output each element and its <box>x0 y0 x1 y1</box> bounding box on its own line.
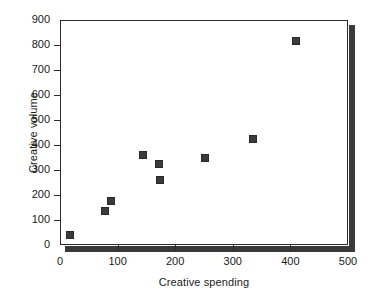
frame-shadow-bottom <box>65 246 355 252</box>
x-axis-tick-label: 500 <box>328 256 368 267</box>
y-axis-tick-label: 800 <box>20 39 50 50</box>
x-axis-tick <box>175 245 176 251</box>
y-axis-title-text: Creative volume <box>27 92 39 173</box>
x-axis-tick-label: 0 <box>40 256 80 267</box>
x-axis-tick <box>290 245 291 251</box>
data-point-marker <box>139 151 147 159</box>
x-axis-tick-label: 100 <box>98 256 138 267</box>
data-point-marker <box>101 207 109 215</box>
y-axis-tick-label: 400 <box>20 139 50 150</box>
y-axis-tick-label: 700 <box>20 64 50 75</box>
y-axis-tick-label: 900 <box>20 14 50 25</box>
x-axis-tick-label: 300 <box>213 256 253 267</box>
data-point-marker <box>156 176 164 184</box>
data-point-marker <box>292 37 300 45</box>
y-axis-tick <box>54 145 60 146</box>
y-axis-tick <box>54 220 60 221</box>
y-axis-tick <box>54 195 60 196</box>
y-axis-tick-label: 100 <box>20 214 50 225</box>
x-axis-tick-label: 400 <box>270 256 310 267</box>
y-axis-tick-label: 300 <box>20 164 50 175</box>
y-axis-tick-label: 500 <box>20 114 50 125</box>
y-axis-tick <box>54 95 60 96</box>
data-point-marker <box>107 197 115 205</box>
x-axis-tick <box>118 245 119 251</box>
y-axis-tick <box>54 170 60 171</box>
y-axis-tick <box>54 120 60 121</box>
x-axis-tick-label: 200 <box>155 256 195 267</box>
data-point-marker <box>249 135 257 143</box>
y-axis-tick-label: 200 <box>20 189 50 200</box>
data-point-marker <box>66 231 74 239</box>
x-axis-title: Creative spending <box>60 276 348 288</box>
data-point-marker <box>201 154 209 162</box>
data-point-marker <box>155 160 163 168</box>
y-axis-tick <box>54 70 60 71</box>
y-axis-tick-label: 0 <box>20 239 50 250</box>
frame-shadow-right <box>349 25 355 250</box>
y-axis-tick <box>54 45 60 46</box>
y-axis-tick-label: 600 <box>20 89 50 100</box>
scatter-chart: Creative volume 010020030040050060070080… <box>0 0 372 299</box>
x-axis-tick <box>233 245 234 251</box>
